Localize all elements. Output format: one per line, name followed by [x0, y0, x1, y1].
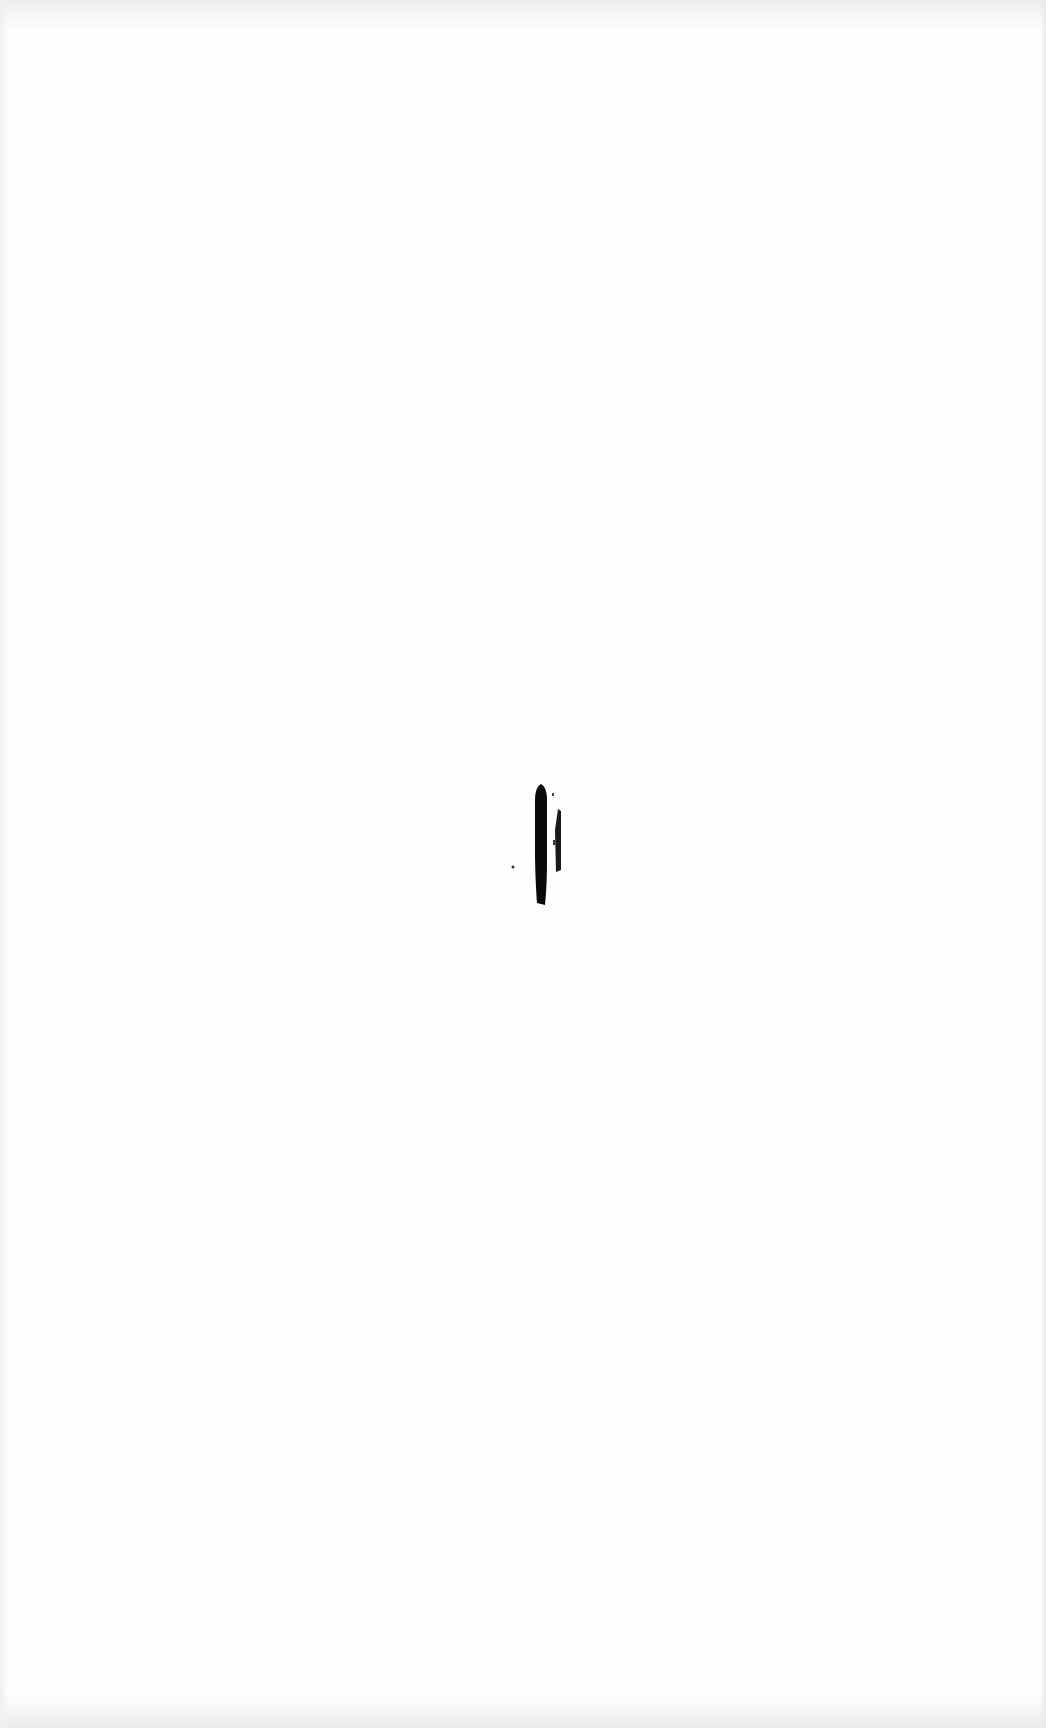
ink-fleck	[553, 840, 555, 845]
ink-stroke-mark	[0, 0, 1046, 1728]
ink-dot	[512, 866, 515, 869]
ink-fleck	[552, 793, 554, 796]
scanned-blank-page	[0, 0, 1046, 1728]
main-vertical-stroke	[535, 784, 547, 905]
thin-vertical-stroke	[555, 809, 561, 872]
